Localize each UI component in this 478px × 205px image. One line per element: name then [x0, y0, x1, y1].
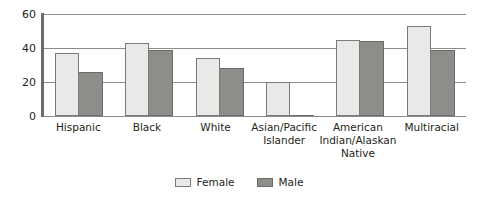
bar-multiracial-female: [407, 26, 431, 116]
bar-groups: [44, 14, 466, 116]
legend-swatch-male-icon: [257, 178, 273, 187]
x-label-white: White: [181, 121, 250, 160]
bar-white-male: [220, 68, 244, 116]
bar-american-indian-alaskan-native-female: [336, 40, 360, 117]
bar-asian-pacific-islander-male: [290, 115, 314, 116]
bar-group-american-indian-alaskan-native: [325, 14, 395, 116]
legend-item-female: Female: [175, 177, 235, 188]
bar-group-black: [114, 14, 184, 116]
bar-multiracial-male: [431, 50, 455, 116]
y-axis-labels: 60 40 20 0: [0, 0, 36, 205]
bar-group-asian-pacific-islander: [255, 14, 325, 116]
bar-group-hispanic: [44, 14, 114, 116]
legend-swatch-female-icon: [175, 178, 191, 187]
y-tick-label-60: 60: [22, 9, 36, 20]
bar-hispanic-female: [55, 53, 79, 116]
y-tick-label-40: 40: [22, 43, 36, 54]
x-label-hispanic: Hispanic: [44, 121, 113, 160]
y-tick-label-20: 20: [22, 77, 36, 88]
x-label-black: Black: [113, 121, 182, 160]
bar-black-male: [149, 50, 173, 116]
bar-hispanic-male: [79, 72, 103, 116]
x-label-multiracial: Multiracial: [397, 121, 466, 160]
legend-label-female: Female: [197, 177, 235, 188]
bar-group-white: [185, 14, 255, 116]
chart-legend: Female Male: [0, 177, 478, 188]
bar-black-female: [125, 43, 149, 116]
bar-white-female: [196, 58, 220, 116]
legend-item-male: Male: [257, 177, 304, 188]
bar-group-multiracial: [396, 14, 466, 116]
bar-chart: 60 40 20 0: [0, 0, 478, 205]
x-label-asian-pacific-islander: Asian/PacificIslander: [250, 121, 319, 160]
bar-asian-pacific-islander-female: [266, 82, 290, 116]
y-tick-label-0: 0: [29, 111, 36, 122]
gridline-0-baseline: [41, 116, 466, 117]
bar-american-indian-alaskan-native-male: [360, 41, 384, 116]
legend-label-male: Male: [279, 177, 304, 188]
x-label-american-indian-alaskan-native: AmericanIndian/AlaskanNative: [318, 121, 397, 160]
x-axis-category-labels: Hispanic Black White Asian/PacificIsland…: [44, 121, 466, 160]
